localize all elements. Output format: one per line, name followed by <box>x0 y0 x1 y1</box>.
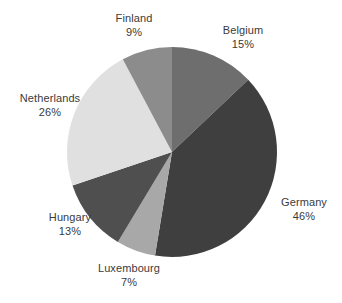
slice-label-belgium-name: Belgium <box>203 24 283 38</box>
slice-label-belgium-value: 15% <box>203 38 283 52</box>
slice-label-luxembourg-name: Luxembourg <box>78 262 180 276</box>
pie-chart-figure: Finland 9% Belgium 15% Netherlands 26% G… <box>0 0 342 303</box>
slice-label-netherlands: Netherlands 26% <box>4 92 96 119</box>
slice-label-finland-name: Finland <box>94 12 174 26</box>
slice-label-luxembourg-value: 7% <box>78 276 180 290</box>
slice-label-netherlands-name: Netherlands <box>4 92 96 106</box>
slice-label-finland: Finland 9% <box>94 12 174 39</box>
slice-label-germany-name: Germany <box>266 196 342 210</box>
pie-chart-svg <box>0 0 342 303</box>
slice-label-netherlands-value: 26% <box>4 106 96 120</box>
slice-label-luxembourg: Luxembourg 7% <box>78 262 180 289</box>
slice-label-belgium: Belgium 15% <box>203 24 283 51</box>
slice-label-hungary-name: Hungary <box>32 211 108 225</box>
slice-label-finland-value: 9% <box>94 26 174 40</box>
slice-label-germany-value: 46% <box>266 210 342 224</box>
slice-label-hungary-value: 13% <box>32 225 108 239</box>
slice-label-hungary: Hungary 13% <box>32 211 108 238</box>
slice-label-germany: Germany 46% <box>266 196 342 223</box>
